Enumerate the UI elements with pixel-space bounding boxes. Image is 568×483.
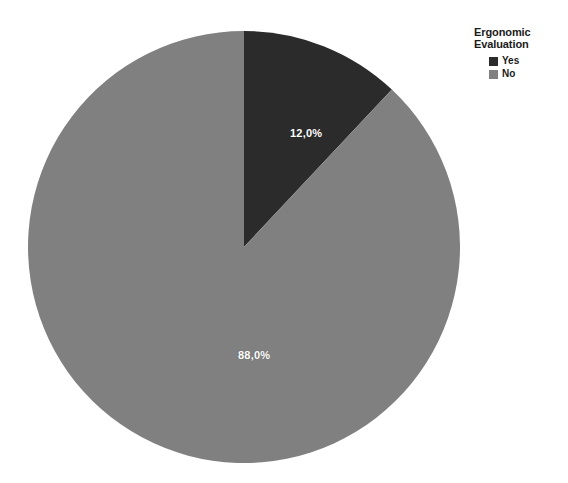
legend-title-line-1: Ergonomic xyxy=(474,26,566,38)
legend-title: Ergonomic Evaluation xyxy=(474,26,566,50)
pie-chart-figure: 12,0% 88,0% Ergonomic Evaluation Yes No xyxy=(0,0,568,483)
legend-label-no: No xyxy=(502,69,515,79)
chart-legend: Ergonomic Evaluation Yes No xyxy=(474,26,566,81)
legend-swatch-icon-yes xyxy=(489,57,498,66)
legend-label-yes: Yes xyxy=(502,56,519,66)
legend-title-line-2: Evaluation xyxy=(474,38,566,50)
pie-chart-svg xyxy=(28,31,460,463)
legend-item-no[interactable]: No xyxy=(489,68,566,80)
legend-item-yes[interactable]: Yes xyxy=(489,55,566,67)
pie-chart-plot-area: 12,0% 88,0% xyxy=(28,31,460,463)
legend-items: Yes No xyxy=(474,55,566,80)
legend-swatch-icon-no xyxy=(489,70,498,79)
pie-slice-label-yes: 12,0% xyxy=(290,127,322,139)
pie-slice-label-no: 88,0% xyxy=(238,349,270,361)
